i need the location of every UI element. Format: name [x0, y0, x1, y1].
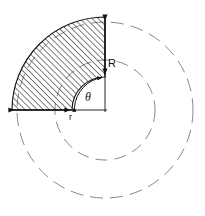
inner-radius-label: r [69, 112, 72, 122]
annular-sector-diagram: R r θ [0, 0, 205, 216]
diagram-canvas: R r θ [0, 0, 205, 216]
angle-label: θ [85, 90, 91, 104]
outer-radius-label: R [108, 57, 116, 69]
hatched-annular-sector [12, 17, 105, 110]
